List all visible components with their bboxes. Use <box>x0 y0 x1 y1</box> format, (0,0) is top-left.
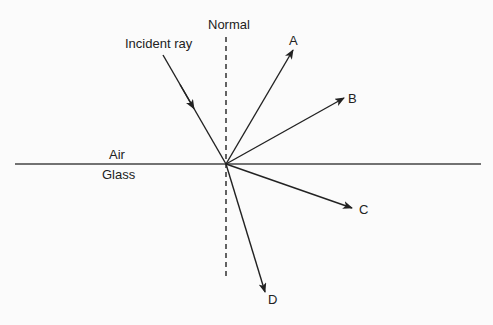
ray-c-label: C <box>359 203 368 216</box>
air-label: Air <box>109 148 125 161</box>
ray-d-label: D <box>268 293 277 306</box>
glass-label: Glass <box>102 168 135 181</box>
ray-d <box>226 164 265 292</box>
ray-b <box>226 98 344 164</box>
optics-diagram <box>0 0 493 325</box>
normal-label: Normal <box>208 18 250 31</box>
incident-ray <box>163 55 226 164</box>
ray-a-label: A <box>289 34 298 47</box>
ray-c <box>226 164 352 208</box>
ray-a <box>226 50 293 164</box>
incident-ray-label: Incident ray <box>125 37 192 50</box>
incident-ray-arrow <box>180 85 194 109</box>
ray-b-label: B <box>348 92 357 105</box>
